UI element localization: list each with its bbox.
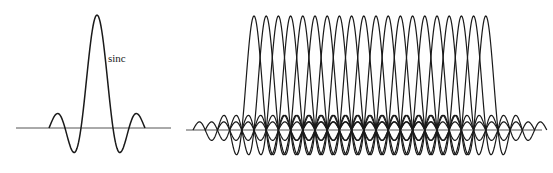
sinc-label: sinc: [108, 52, 126, 64]
ofdm-subcarriers-panel: [186, 16, 547, 155]
sinc-curve: [49, 15, 145, 153]
ofdm-sinc-figure: sinc: [0, 0, 553, 173]
single-sinc-panel: sinc: [16, 15, 171, 153]
subcarrier-sinc-curves: [193, 16, 547, 155]
